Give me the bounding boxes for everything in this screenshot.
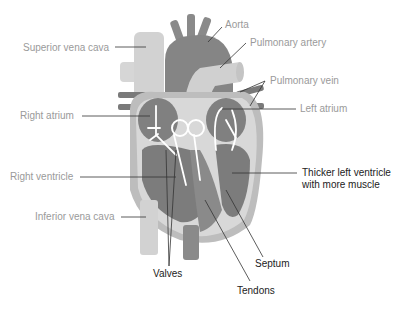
label-valves: Valves (153, 268, 182, 280)
right-atrium-chamber (138, 98, 178, 142)
label-pulmonary-vein: Pulmonary vein (270, 75, 339, 87)
label-thicker-left-ventricle-line1: Thicker left ventricle (302, 167, 391, 179)
label-thicker-left-ventricle: Thicker left ventricle with more muscle (302, 167, 391, 191)
label-thicker-left-ventricle-line2: with more muscle (302, 179, 391, 191)
descending-aorta-shape (183, 225, 199, 260)
label-inferior-vena-cava: Inferior vena cava (35, 211, 115, 223)
label-right-atrium: Right atrium (20, 110, 74, 122)
label-septum: Septum (255, 258, 289, 270)
label-tendons: Tendons (237, 285, 275, 297)
label-left-atrium: Left atrium (300, 103, 347, 115)
label-superior-vena-cava: Superior vena cava (23, 42, 109, 54)
label-pulmonary-artery: Pulmonary artery (250, 37, 326, 49)
label-right-ventricle: Right ventricle (10, 171, 73, 183)
inferior-vena-cava-shape (140, 200, 158, 255)
label-aorta: Aorta (225, 19, 249, 31)
